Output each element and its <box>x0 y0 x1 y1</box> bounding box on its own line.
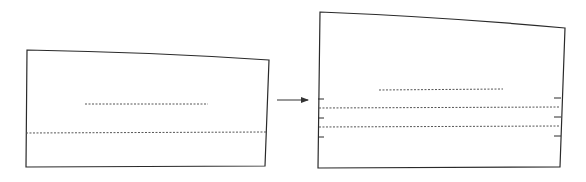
pattern-lengthening-diagram <box>0 0 586 182</box>
left-piece-outline <box>26 50 269 167</box>
left-piece-lengthen-line <box>26 132 266 133</box>
spread-line <box>319 126 560 127</box>
left-pattern-piece <box>26 50 269 167</box>
right-piece-grainline <box>379 89 503 90</box>
right-piece-spread-lines <box>319 107 560 127</box>
right-piece-outline <box>318 12 565 168</box>
right-pattern-piece <box>318 12 565 168</box>
right-piece-notch-marks <box>318 98 561 137</box>
spread-line <box>319 107 560 108</box>
